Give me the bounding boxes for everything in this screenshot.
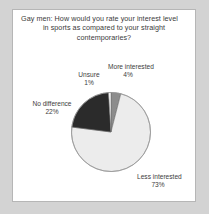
pie-label-more-interested: More interested 4% <box>108 63 148 79</box>
chart-panel: Gay men: How would you rate your interes… <box>12 9 196 202</box>
pie-graphic <box>70 91 152 173</box>
pie-chart: Unsure 1% More interested 4% No differen… <box>13 10 195 201</box>
pie-label-less-interested: Less interested 73% <box>137 173 179 189</box>
pie-slice-group <box>71 92 150 171</box>
pie-label-no-difference-name: No difference <box>22 100 82 108</box>
pie-label-unsure-name: Unsure <box>71 71 107 79</box>
pie-label-no-difference: No difference 22% <box>22 100 82 116</box>
pie-label-more-interested-name: More interested <box>108 63 148 71</box>
pie-label-less-interested-value: 73% <box>137 181 179 189</box>
pie-label-more-interested-value: 4% <box>108 71 148 79</box>
pie-label-less-interested-name: Less interested <box>137 173 179 181</box>
pie-label-no-difference-value: 22% <box>22 108 82 116</box>
pie-label-unsure-value: 1% <box>71 79 107 87</box>
pie-label-unsure: Unsure 1% <box>71 71 107 87</box>
